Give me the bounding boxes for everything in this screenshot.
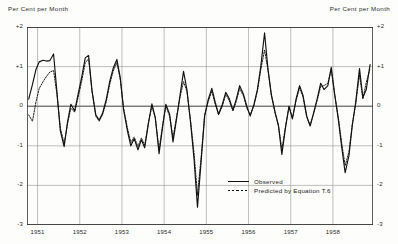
y-tick-label: -2 xyxy=(377,181,383,187)
y-tick-label: +2 xyxy=(2,23,23,29)
x-tick-label: 1955 xyxy=(190,229,222,235)
plot-frame xyxy=(27,27,372,224)
y-tick-label: 0 xyxy=(2,102,23,108)
y-tick-label: -1 xyxy=(377,142,383,148)
legend-item-observed: Observed xyxy=(228,177,331,186)
chart-legend: Observed Predicted by Equation T.6 xyxy=(228,177,331,195)
plot-area xyxy=(27,27,373,225)
y-tick-label: -3 xyxy=(377,221,383,227)
y-tick-label: 0 xyxy=(377,102,381,108)
legend-dashed-line-icon xyxy=(228,188,249,194)
y-axis-unit-label-right: Per Cent per Month xyxy=(330,5,390,12)
chart-canvas xyxy=(27,27,373,225)
y-tick-label: -3 xyxy=(2,221,23,227)
x-tick-label: 1954 xyxy=(148,229,180,235)
y-tick-label: -1 xyxy=(2,142,23,148)
y-tick-label: +1 xyxy=(2,63,23,69)
y-tick-label: +2 xyxy=(377,23,384,29)
x-tick-label: 1956 xyxy=(233,229,265,235)
chart-page: Per Cent per Month Per Cent per Month +2… xyxy=(0,0,398,244)
x-tick-label: 1958 xyxy=(317,229,349,235)
x-tick-label: 1951 xyxy=(22,229,54,235)
legend-item-predicted: Predicted by Equation T.6 xyxy=(228,186,331,195)
y-axis-unit-label-left: Per Cent per Month xyxy=(8,5,68,12)
legend-label-observed: Observed xyxy=(254,178,283,185)
x-tick-label: 1952 xyxy=(64,229,96,235)
y-tick-label: -2 xyxy=(2,181,23,187)
legend-solid-line-icon xyxy=(228,179,249,185)
x-tick-label: 1953 xyxy=(106,229,138,235)
y-tick-label: +1 xyxy=(377,63,384,69)
x-tick-label: 1957 xyxy=(275,229,307,235)
legend-label-predicted: Predicted by Equation T.6 xyxy=(254,187,331,194)
